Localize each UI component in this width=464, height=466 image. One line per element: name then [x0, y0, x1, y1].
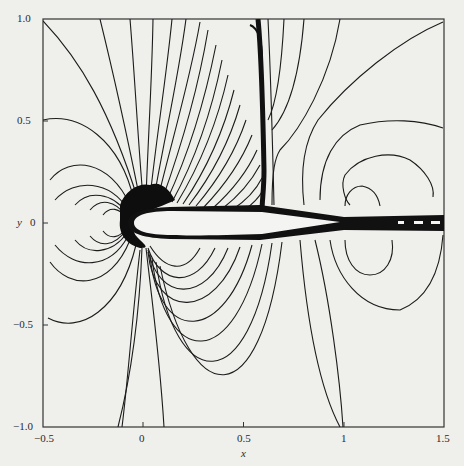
- contour-plot: [0, 0, 464, 466]
- y-tick-label: 0: [30, 216, 36, 228]
- x-axis-label: x: [241, 447, 246, 459]
- x-tick-label: 1.5: [436, 432, 450, 444]
- y-tick-label: 1.0: [17, 12, 31, 24]
- contour-lines: [43, 19, 444, 427]
- y-tick-label: −0.5: [13, 318, 33, 330]
- x-tick-label: 1: [341, 432, 347, 444]
- x-tick-label: −0.5: [34, 432, 54, 444]
- y-axis-label: y: [17, 216, 22, 228]
- x-tick-label: 0: [139, 432, 145, 444]
- x-tick-label: 0.5: [237, 432, 251, 444]
- contour-figure: 1.0 0.5 0 −0.5 −1.0 y −0.5 0 0.5 1 1.5 x: [0, 0, 464, 466]
- y-tick-label: −1.0: [13, 420, 33, 432]
- y-tick-label: 0.5: [17, 114, 31, 126]
